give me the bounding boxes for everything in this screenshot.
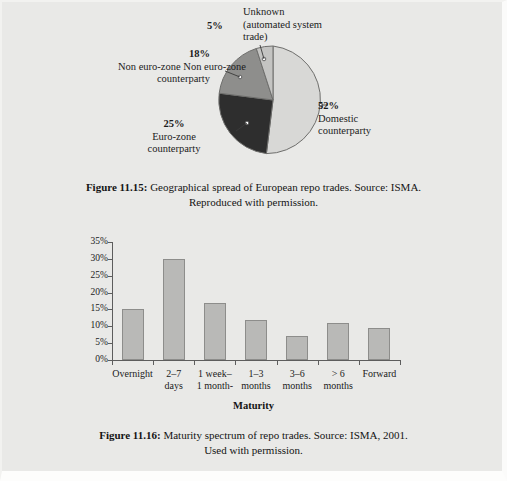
y-tick-label: 35% xyxy=(91,236,108,246)
x-tick-mark xyxy=(318,361,319,365)
x-tick-mark xyxy=(359,361,360,365)
figure-1115-caption: Figure 11.15: Geographical spread of Eur… xyxy=(0,180,507,210)
pie-label-non-euro-zone-body: Non euro-zone xyxy=(183,61,246,72)
pie-pct-euro-zone: 25% xyxy=(164,118,185,129)
x-tick-mark xyxy=(153,361,154,365)
pie-pct-domestic: 52% xyxy=(318,100,339,111)
y-tick-mark xyxy=(108,259,112,260)
bar xyxy=(327,323,349,360)
x-tick-mark xyxy=(112,361,113,365)
pie-slice-domestic xyxy=(266,46,320,154)
x-tick-mark xyxy=(194,361,195,365)
bar-figure: Maturity 0%5%10%15%20%25%30%35%Overnight… xyxy=(0,232,507,422)
pie-label-unknown-line2: (automated system xyxy=(243,19,322,30)
pie-label-non-euro-zone: 18% Non euro-zone xyxy=(118,48,210,86)
bar xyxy=(204,303,226,360)
figure-1115-caption-text: Geographical spread of European repo tra… xyxy=(147,181,421,193)
y-tick-label: 10% xyxy=(91,320,108,330)
bar xyxy=(163,259,185,360)
y-tick-mark xyxy=(108,293,112,294)
pie-figure: 5% Unknown (automated system trade) 52% … xyxy=(0,0,507,180)
y-tick-mark xyxy=(108,309,112,310)
y-tick-mark xyxy=(108,343,112,344)
bar xyxy=(286,336,308,360)
pie-label-euro-zone-line2: counterparty xyxy=(147,143,200,154)
pie-pct-unknown: 5% xyxy=(207,20,223,33)
x-category-label-line: months xyxy=(324,380,353,391)
figure-1116-caption-prefix: Figure 11.16: xyxy=(99,429,161,441)
pie-label-domestic-line2: counterparty xyxy=(318,125,371,136)
x-tick-mark xyxy=(235,361,236,365)
bar xyxy=(122,309,144,360)
y-tick-mark xyxy=(108,242,112,243)
bar xyxy=(368,328,390,360)
figure-1116-caption-line2: Used with permission. xyxy=(204,444,303,456)
figure-page: 5% Unknown (automated system trade) 52% … xyxy=(0,0,507,481)
pie-label-domestic-line1: Domestic xyxy=(318,113,358,124)
bar-chart-x-axis-title: Maturity xyxy=(0,400,507,411)
y-tick-label: 30% xyxy=(91,253,108,263)
x-category-label-line: Forward xyxy=(362,368,396,379)
pie-label-domestic: 52% Domestic counterparty xyxy=(318,100,371,138)
y-tick-label: 25% xyxy=(91,270,108,280)
y-tick-mark xyxy=(108,326,112,327)
bar xyxy=(245,320,267,360)
y-tick-label: 20% xyxy=(91,287,108,297)
y-tick-label: 5% xyxy=(95,337,108,347)
figure-1115-caption-line2: Reproduced with permission. xyxy=(189,196,318,208)
y-tick-mark xyxy=(108,276,112,277)
pie-label-euro-zone-line1: Euro-zone xyxy=(152,131,196,142)
y-tick-label: 15% xyxy=(91,303,108,313)
pie-label-unknown-line3: trade) xyxy=(243,31,267,42)
figure-1116-caption: Figure 11.16: Maturity spectrum of repo … xyxy=(0,428,507,458)
y-tick-label: 0% xyxy=(95,354,108,364)
pie-label-non-euro-zone-line2: counterparty xyxy=(157,73,210,84)
pie-label-non-euro-line1b: Non euro-zone xyxy=(118,61,181,72)
x-tick-mark xyxy=(400,361,401,365)
pie-label-unknown: 5% Unknown (automated system trade) xyxy=(243,6,322,44)
figure-1116-caption-text: Maturity spectrum of repo trades. Source… xyxy=(161,429,408,441)
bar-chart-x-axis xyxy=(112,360,401,361)
pie-label-unknown-line1: Unknown xyxy=(243,6,284,17)
pie-pct-non-euro-zone: 18% xyxy=(189,48,210,59)
x-category-label: Forward xyxy=(339,368,419,380)
pie-label-euro-zone: 25% Euro-zone counterparty xyxy=(128,118,220,156)
figure-1115-caption-prefix: Figure 11.15: xyxy=(86,181,148,193)
x-tick-mark xyxy=(277,361,278,365)
bar-chart-plot-area xyxy=(112,242,400,360)
